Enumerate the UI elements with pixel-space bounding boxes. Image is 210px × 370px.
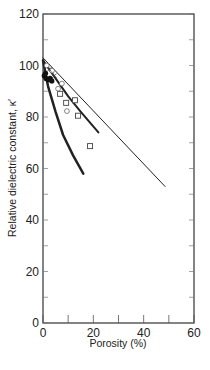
y-tick-label: 100: [19, 59, 39, 73]
plot-border: [43, 14, 194, 323]
y-tick-label: 80: [26, 110, 40, 124]
square-marker: [72, 98, 77, 103]
circle-marker: [44, 63, 49, 68]
filled-marker: [49, 78, 54, 83]
square-marker: [75, 113, 80, 118]
series-line: [43, 58, 165, 187]
circle-marker: [65, 109, 70, 114]
y-tick-label: 40: [26, 213, 40, 227]
tick-labels: 0204060020406080100120: [19, 7, 201, 340]
plot-frame: [43, 14, 194, 323]
x-tick-label: 60: [187, 326, 201, 340]
y-tick-label: 60: [26, 162, 40, 176]
square-marker: [64, 100, 69, 105]
filled-marker: [43, 71, 48, 76]
axis-ticks: [43, 14, 194, 323]
y-axis-label: Relative dielectric constant, κ′: [6, 99, 18, 237]
dielectric-porosity-chart: 0204060020406080100120 Porosity (%) Rela…: [0, 0, 210, 370]
square-marker: [88, 144, 93, 149]
circle-marker: [59, 81, 64, 86]
y-tick-label: 20: [26, 265, 40, 279]
y-tick-label: 120: [19, 7, 39, 21]
x-tick-label: 0: [40, 326, 47, 340]
data-series: [42, 58, 165, 187]
x-axis-label: Porosity (%): [89, 337, 146, 349]
square-marker: [58, 91, 63, 96]
circle-marker: [56, 86, 61, 91]
y-tick-label: 0: [32, 316, 39, 330]
